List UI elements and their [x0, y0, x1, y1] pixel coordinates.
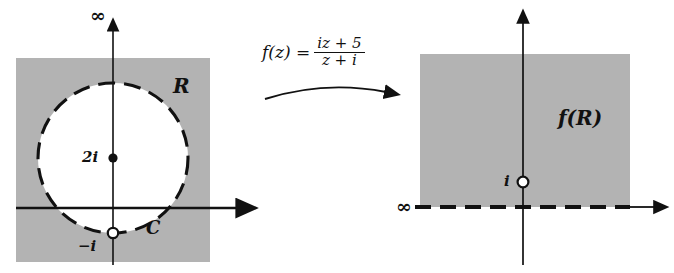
formula-fraction: iz + 5 z + i — [314, 36, 364, 69]
point-2i-label: 2i — [82, 150, 98, 165]
point-minus-i — [108, 228, 118, 238]
formula-lhs: f(z) = — [262, 42, 310, 62]
transformation-arrow — [265, 87, 386, 99]
region-R-label: R — [173, 76, 190, 96]
transformation-formula: f(z) = iz + 5 z + i — [262, 36, 365, 69]
point-i — [518, 177, 529, 188]
point-minus-i-label: −i — [78, 239, 96, 254]
region-f-R-label: f(R) — [558, 108, 602, 128]
point-2i — [108, 153, 117, 162]
left-infinity-label: ∞ — [90, 6, 106, 25]
figure-canvas: ∞ R 2i −i C f(z) = iz + 5 z + i ∞ f(R) i — [0, 0, 674, 273]
formula-denominator: z + i — [314, 52, 364, 69]
formula-numerator: iz + 5 — [314, 36, 364, 52]
point-i-label: i — [504, 174, 510, 189]
curve-C-label: C — [146, 219, 160, 237]
right-infinity-label: ∞ — [396, 197, 412, 216]
